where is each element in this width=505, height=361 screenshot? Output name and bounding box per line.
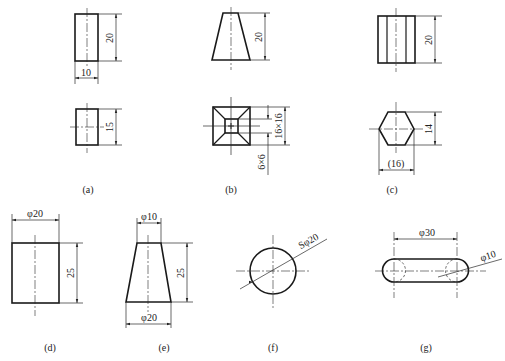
view-g-length-dim: φ30 (419, 227, 435, 238)
view-c-front-rect (378, 16, 415, 63)
view-c: 20 14 (16) (c) (369, 8, 442, 196)
view-b-inner-dim: 6×6 (256, 154, 267, 170)
view-d-caption: (d) (44, 342, 56, 354)
view-d-height-dim: 25 (65, 268, 76, 278)
view-b-height-dim: 20 (253, 32, 264, 42)
view-c-height-dim: 20 (423, 35, 434, 45)
view-c-top-hexagon (379, 112, 414, 145)
view-e-top-diameter-dim: φ10 (141, 211, 157, 222)
view-e-frustum-trapezoid (126, 243, 171, 302)
view-d-diameter-dim: φ20 (27, 208, 43, 219)
view-b-outer-dim: 16×16 (273, 113, 284, 139)
view-a: 20 10 15 (a) (70, 8, 122, 196)
view-e-height-dim: 25 (175, 268, 186, 278)
view-d: φ20 25 (d) (12, 208, 83, 354)
view-c-caption: (c) (386, 184, 397, 196)
view-g: φ30 φ10 (g) (375, 227, 502, 354)
view-b: 20 16×16 6×6 (b) (203, 7, 290, 196)
projection-drawing: 20 10 15 (a) 20 (0, 0, 505, 361)
view-c-top-height-dim: 14 (423, 124, 434, 134)
view-a-height-dim: 20 (104, 33, 115, 43)
view-a-top-height-dim: 15 (104, 122, 115, 132)
view-e: φ10 25 φ20 (e) (126, 211, 193, 354)
view-a-front-rect (75, 14, 98, 61)
view-b-caption: (b) (225, 184, 237, 196)
view-g-caption: (g) (420, 342, 432, 354)
view-e-caption: (e) (158, 342, 169, 354)
view-f-caption: (f) (268, 342, 278, 354)
view-c-width-dim: (16) (388, 158, 405, 170)
view-a-width-dim: 10 (81, 67, 91, 78)
view-f: Sφ20 (f) (236, 231, 327, 354)
view-a-caption: (a) (82, 184, 93, 196)
view-g-slot-outline (383, 259, 469, 282)
view-e-bottom-diameter-dim: φ20 (141, 312, 157, 323)
view-f-sphere-dim: Sφ20 (296, 231, 320, 251)
view-d-cylinder-rect (12, 243, 59, 303)
